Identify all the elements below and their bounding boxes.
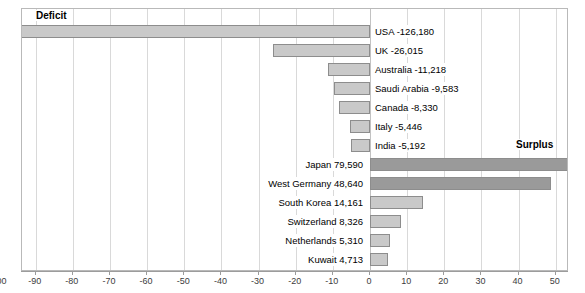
x-tick-label: 10 (401, 276, 411, 286)
bar-label-usa: USA -126,180 (373, 25, 436, 38)
gridline (36, 9, 37, 270)
gridline (221, 9, 222, 270)
x-tick-label: -60 (140, 276, 153, 286)
x-tick (109, 271, 110, 275)
x-tick (480, 271, 481, 275)
bar-label-italy: Italy -5,446 (373, 120, 424, 133)
gridline (147, 9, 148, 270)
bar-chart: USA -126,180UK -26,015Australia -11,218S… (0, 0, 585, 293)
bar-uk (273, 44, 370, 57)
bar-label-japan: Japan 79,590 (303, 158, 365, 171)
x-tick (332, 271, 333, 275)
surplus-annotation: Surplus (514, 139, 555, 150)
gridline (444, 9, 445, 270)
x-tick (518, 271, 519, 275)
x-tick (72, 271, 73, 275)
gridline (259, 9, 260, 270)
gridline (73, 9, 74, 270)
bar-south-korea (370, 196, 423, 209)
x-tick-label: -50 (177, 276, 190, 286)
x-tick (220, 271, 221, 275)
x-tick (295, 271, 296, 275)
x-tick (258, 271, 259, 275)
x-tick-label: -40 (214, 276, 227, 286)
bar-italy (350, 120, 370, 133)
bar-saudi-arabia (334, 82, 370, 95)
x-tick (443, 271, 444, 275)
x-tick (146, 271, 147, 275)
x-tick-label: -90 (28, 276, 41, 286)
bar-label-switzerland: Switzerland 8,326 (285, 215, 365, 228)
bar-label-canada: Canada -8,330 (373, 101, 440, 114)
x-tick-label: 30 (475, 276, 485, 286)
bar-label-saudi-arabia: Saudi Arabia -9,583 (373, 82, 460, 95)
bar-label-netherlands: Netherlands 5,310 (283, 234, 365, 247)
x-tick-label: -80 (65, 276, 78, 286)
x-tick-label: -30 (251, 276, 264, 286)
x-tick (369, 271, 370, 275)
bar-label-south-korea: South Korea 14,161 (276, 196, 365, 209)
x-tick-label: 40 (513, 276, 523, 286)
x-tick-label: -20 (288, 276, 301, 286)
bar-label-uk: UK -26,015 (373, 44, 425, 57)
bar-west-germany (370, 177, 551, 190)
bar-label-india: India -5,192 (373, 139, 427, 152)
x-tick (35, 271, 36, 275)
bar-canada (339, 101, 370, 114)
x-tick-label: -100 (0, 276, 7, 286)
zero-line (370, 9, 371, 270)
bar-netherlands (370, 234, 390, 247)
gridline (481, 9, 482, 270)
bar-kuwait (370, 253, 388, 266)
x-tick (183, 271, 184, 275)
gridline (184, 9, 185, 270)
bar-usa (21, 25, 370, 38)
x-tick-label: 50 (550, 276, 560, 286)
bar-australia (328, 63, 370, 76)
x-tick-label: 20 (438, 276, 448, 286)
x-tick-label: -10 (325, 276, 338, 286)
deficit-annotation: Deficit (34, 10, 69, 21)
bar-label-kuwait: Kuwait 4,713 (306, 253, 365, 266)
bar-label-australia: Australia -11,218 (373, 63, 448, 76)
x-tick (555, 271, 556, 275)
x-tick-label: 0 (366, 276, 371, 286)
bar-label-west-germany: West Germany 48,640 (266, 177, 365, 190)
bar-india (351, 139, 370, 152)
gridline (110, 9, 111, 270)
bar-japan (370, 158, 568, 171)
bar-switzerland (370, 215, 401, 228)
x-tick (406, 271, 407, 275)
gridline (556, 9, 557, 270)
plot-area: USA -126,180UK -26,015Australia -11,218S… (21, 8, 568, 271)
x-tick-label: -70 (102, 276, 115, 286)
